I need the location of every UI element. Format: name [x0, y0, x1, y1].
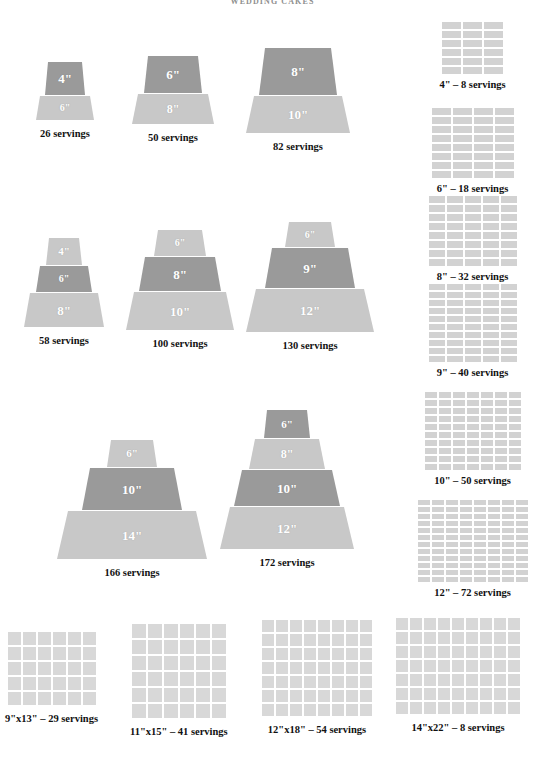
serving-cell	[474, 556, 486, 561]
sheet-serving-cell	[332, 676, 344, 688]
sheet-serving-cell	[466, 674, 478, 686]
serving-cell	[501, 340, 517, 346]
sheet-cake-servings-caption: 9"x13" – 29 servings	[5, 713, 98, 724]
serving-cell	[488, 577, 500, 582]
serving-cell	[474, 570, 486, 575]
serving-cell	[447, 232, 463, 239]
serving-cell	[483, 205, 499, 212]
serving-cell	[442, 67, 461, 74]
serving-cell	[509, 408, 521, 414]
sheet-serving-cell	[132, 656, 146, 670]
serving-cell	[432, 570, 444, 575]
sheet-serving-cell	[53, 647, 66, 660]
sheet-serving-cell	[68, 692, 81, 705]
cake-tier: 8"	[249, 439, 325, 469]
serving-cell	[501, 300, 517, 306]
cake-servings-caption: 50 servings	[118, 132, 228, 143]
sheet-serving-cell	[290, 620, 302, 632]
serving-cell	[501, 284, 517, 290]
sheet-serving-cell	[212, 640, 226, 654]
serving-cell	[495, 448, 507, 454]
serving-cell	[447, 214, 463, 221]
serving-cell	[516, 556, 528, 561]
serving-cell	[516, 521, 528, 526]
sheet-serving-cell	[164, 672, 178, 686]
serving-cell	[460, 514, 472, 519]
serving-cell	[432, 500, 444, 505]
cake-tier: 6"	[36, 266, 92, 292]
sheet-serving-cell	[304, 620, 316, 632]
sheet-serving-cell	[452, 618, 464, 630]
serving-cell	[484, 40, 503, 47]
sheet-serving-cell	[396, 660, 408, 672]
serving-cell	[484, 58, 503, 65]
sheet-serving-cell	[132, 640, 146, 654]
serving-cell	[495, 126, 514, 133]
serving-cell	[502, 556, 514, 561]
cake-tier: 8"	[24, 293, 104, 327]
serving-cell	[481, 464, 493, 470]
cake-tier-size-label: 6"	[281, 419, 293, 430]
serving-cell	[446, 514, 458, 519]
serving-cell	[429, 259, 445, 266]
cake-tier-size-label: 6"	[305, 230, 316, 240]
serving-cell	[447, 332, 463, 338]
serving-grid-wrap	[400, 196, 545, 266]
serving-cell	[501, 241, 517, 248]
cake-tier: 4"	[45, 62, 85, 95]
cake-diagram: 8"10"82 servings	[228, 48, 368, 152]
sheet-serving-cell	[466, 702, 478, 714]
serving-cell	[516, 514, 528, 519]
serving-cell	[501, 292, 517, 298]
serving-cell	[432, 577, 444, 582]
cake-tier-stack: 4"6"8"	[8, 238, 120, 328]
serving-cell	[453, 171, 472, 178]
cake-tier: 8"	[139, 257, 221, 291]
serving-cell	[429, 300, 445, 306]
round-cake-servings-caption: 6" – 18 servings	[400, 183, 545, 194]
serving-cell	[425, 464, 437, 470]
serving-cell	[429, 205, 445, 212]
serving-cell	[453, 448, 465, 454]
serving-cell	[484, 22, 503, 29]
serving-cell	[501, 223, 517, 230]
serving-grid	[429, 284, 517, 362]
serving-cell	[465, 223, 481, 230]
cake-tier: 6"	[144, 56, 202, 93]
sheet-serving-cell	[262, 648, 274, 660]
sheet-serving-cell	[262, 634, 274, 646]
serving-cell	[453, 392, 465, 398]
serving-cell	[474, 577, 486, 582]
sheet-serving-cell	[480, 618, 492, 630]
sheet-serving-cell	[480, 646, 492, 658]
serving-cell	[418, 528, 430, 533]
serving-grid-wrap	[400, 108, 545, 178]
sheet-serving-cell	[132, 688, 146, 702]
sheet-serving-cell	[132, 624, 146, 638]
serving-cell	[474, 514, 486, 519]
sheet-serving-cell	[180, 624, 194, 638]
sheet-serving-cell	[23, 692, 36, 705]
round-cake-servings-caption: 9" – 40 servings	[400, 367, 545, 378]
serving-cell	[467, 456, 479, 462]
cake-tier-size-label: 8"	[173, 268, 187, 281]
serving-cell	[495, 153, 514, 160]
sheet-serving-cell	[38, 692, 51, 705]
sheet-serving-cell	[424, 632, 436, 644]
serving-cell	[429, 316, 445, 322]
serving-cell	[488, 507, 500, 512]
sheet-serving-cell	[164, 688, 178, 702]
serving-cell	[483, 348, 499, 354]
sheet-serving-cell	[83, 677, 96, 690]
cake-diagram: 6"8"10"12"172 servings	[212, 410, 362, 568]
serving-cell	[418, 514, 430, 519]
sheet-grid-wrap	[396, 618, 520, 714]
sheet-cake-servings-caption: 11"x15" – 41 servings	[130, 726, 228, 737]
cake-tier: 6"	[285, 222, 335, 247]
sheet-serving-cell	[68, 677, 81, 690]
sheet-serving-cell	[276, 690, 288, 702]
cake-tier: 14"	[57, 511, 207, 559]
serving-cell	[488, 570, 500, 575]
serving-cell	[432, 556, 444, 561]
serving-cell	[516, 563, 528, 568]
